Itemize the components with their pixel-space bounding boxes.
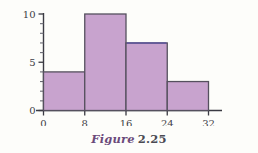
x-tick-label-24: 24 <box>161 118 174 127</box>
y-tick-label-5: 5 <box>29 57 35 68</box>
y-tick-label-0: 0 <box>29 105 35 116</box>
figure-caption-number: 2.25 <box>138 132 167 146</box>
y-tick-label-10: 10 <box>23 9 36 20</box>
x-tick-label-0: 0 <box>40 118 46 127</box>
figure-caption: Figure2.25 <box>0 129 258 147</box>
histogram-bar <box>85 14 126 111</box>
histogram-bars <box>44 14 209 111</box>
histogram-bar <box>126 43 167 111</box>
chart-svg: 0510 08162432 <box>0 0 258 126</box>
x-tick-label-16: 16 <box>120 118 133 127</box>
figure-container: 0510 08162432 Figure2.25 <box>0 0 258 153</box>
histogram-chart: 0510 08162432 <box>0 0 258 126</box>
y-axis-tick-labels: 0510 <box>23 9 36 117</box>
histogram-bar <box>44 72 85 111</box>
x-axis-tick-labels: 08162432 <box>40 118 215 127</box>
figure-caption-word: Figure <box>91 132 135 146</box>
x-axis-major-ticks <box>44 111 209 116</box>
histogram-bar <box>167 82 208 111</box>
y-axis-major-ticks <box>39 14 44 111</box>
x-tick-label-8: 8 <box>82 118 88 127</box>
x-tick-label-32: 32 <box>202 118 215 127</box>
